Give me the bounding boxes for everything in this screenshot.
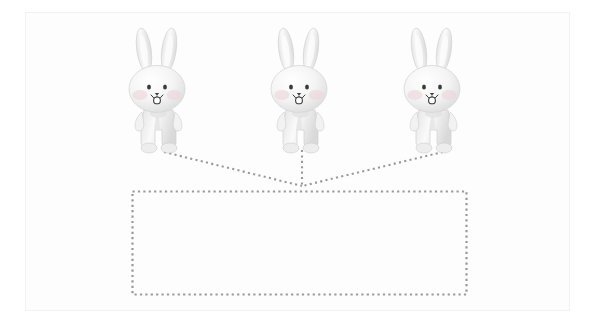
rabbit-head	[129, 66, 185, 113]
rabbit-head	[404, 66, 460, 113]
rabbit-figurine-right	[385, 26, 485, 156]
rabbit-head	[271, 66, 327, 113]
rabbit-body	[410, 110, 457, 153]
rabbit-eye-left	[289, 84, 293, 89]
rabbit-body	[135, 110, 182, 153]
rabbit-eye-right	[163, 84, 167, 89]
rabbit-body	[277, 110, 324, 153]
rabbit-eye-right	[305, 84, 309, 89]
rabbit-figurine-left	[110, 26, 210, 156]
connector-line-left	[164, 152, 302, 186]
connector-line-right	[302, 152, 443, 186]
rabbit-cheek-left	[275, 90, 290, 100]
rabbit-mouth	[429, 97, 436, 104]
rabbit-figurine-center	[252, 26, 352, 156]
rabbit-eye-left	[147, 84, 151, 89]
rabbit-eye-left	[422, 84, 426, 89]
rabbit-cheek-right	[442, 90, 457, 100]
rabbit-cheek-right	[167, 90, 182, 100]
rabbit-eye-right	[438, 84, 442, 89]
dotted-region-content	[132, 191, 467, 295]
rabbit-mouth	[296, 97, 303, 104]
diagram-canvas	[0, 0, 595, 333]
rabbit-mouth	[154, 97, 161, 104]
rabbit-cheek-right	[309, 90, 324, 100]
rabbit-cheek-left	[133, 90, 148, 100]
rabbit-cheek-left	[408, 90, 423, 100]
